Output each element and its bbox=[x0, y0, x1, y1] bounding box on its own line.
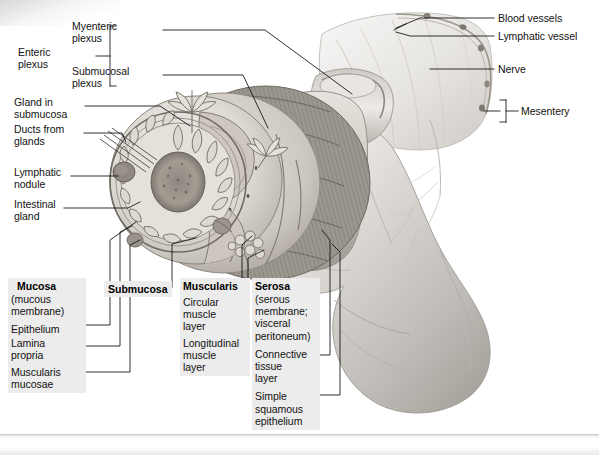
label-gland-in-submucosa: Gland in submucosa bbox=[14, 96, 92, 120]
label-blood-vessels: Blood vessels bbox=[498, 12, 562, 24]
muscularis-label-box: Muscularis Circular muscle layer Longitu… bbox=[180, 278, 250, 376]
serosa-item-simple-squamous: Simple squamous epithelium bbox=[255, 390, 317, 427]
submucosa-title: Submucosa bbox=[108, 283, 168, 295]
serosa-subtitle: (serous membrane; visceral peritoneum) bbox=[255, 293, 317, 342]
serosa-title: Serosa bbox=[255, 280, 317, 292]
label-submucosal-plexus: Submucosal plexus bbox=[72, 65, 164, 89]
serosa-label-box: Serosa (serous membrane; visceral perito… bbox=[252, 278, 320, 430]
label-ducts-from-glands: Ducts from glands bbox=[14, 123, 92, 147]
label-nerve: Nerve bbox=[498, 63, 526, 75]
muscularis-item-circular: Circular muscle layer bbox=[183, 296, 247, 333]
mucosa-cut-face bbox=[100, 96, 282, 270]
mucosa-title: Mucosa bbox=[11, 280, 83, 292]
submucosa-label-box: Submucosa bbox=[104, 281, 172, 297]
muscularis-item-longitudinal: Longitudinal muscle layer bbox=[183, 337, 247, 374]
serosa-item-connective-tissue: Connective tissue layer bbox=[255, 348, 317, 385]
label-lymphatic-vessel: Lymphatic vessel bbox=[498, 30, 577, 42]
mucosa-subtitle: (mucous membrane) bbox=[11, 293, 83, 317]
label-myenteric-plexus: Myenteric plexus bbox=[72, 20, 164, 44]
mucosa-item-lamina-propria: Lamina propria bbox=[11, 337, 83, 361]
mucosa-label-box: Mucosa (mucous membrane) Epithelium Lami… bbox=[8, 278, 86, 393]
muscularis-title: Muscularis bbox=[183, 280, 247, 292]
label-mesentery: Mesentery bbox=[521, 105, 570, 117]
figure-canvas: Enteric plexus Myenteric plexus Submucos… bbox=[0, 0, 599, 455]
label-lymphatic-nodule: Lymphatic nodule bbox=[14, 166, 86, 190]
mucosa-item-muscularis-mucosae: Muscularis mucosae bbox=[11, 366, 83, 390]
label-intestinal-gland: Intestinal gland bbox=[14, 198, 86, 222]
mucosa-item-epithelium: Epithelium bbox=[11, 323, 83, 335]
